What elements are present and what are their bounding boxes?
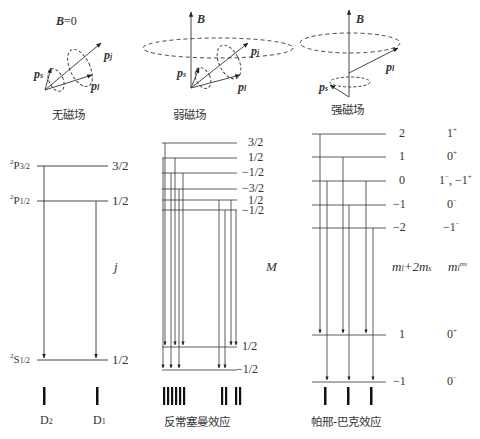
anomalous-zeeman-label: 反常塞曼效应	[164, 413, 230, 429]
ml2ms-lower-1: 1	[399, 327, 405, 342]
mlms-neg1m: −1−	[443, 220, 460, 235]
ps-label: ps	[34, 67, 43, 82]
strong-field-transitions	[320, 134, 373, 380]
term-s12: 2S1/2	[10, 352, 30, 365]
j-value-12-upper: 1/2	[112, 193, 129, 209]
ps-label-weak: ps	[177, 66, 186, 81]
pl-label: pl	[91, 79, 99, 94]
ml2ms-neg1: −1	[393, 197, 406, 212]
weak-field-transitions	[163, 143, 236, 368]
mlms-1p: 1+	[447, 126, 457, 141]
pl-label-weak: pl	[238, 80, 246, 95]
m-value-1-2: 1/2	[248, 150, 263, 165]
m-value-neg-1-2: −1/2	[242, 165, 264, 180]
term-p12: 2P1/2	[10, 193, 30, 206]
pj-label: pj	[104, 48, 112, 63]
m-value-lower-1-2: 1/2	[242, 339, 257, 354]
ml2ms-lower-neg1: −1	[393, 374, 406, 389]
strong-field-vector-diagram	[300, 10, 400, 97]
ps-label-strong: ps	[319, 80, 328, 95]
ml-plus-2ms-axis-label: ml+2ms	[392, 259, 431, 275]
strong-field-spectral-lines	[324, 387, 373, 405]
term-p32: 2P3/2	[10, 158, 30, 171]
pl-label-strong: pl	[386, 60, 394, 75]
mlms-0p: 0+	[447, 149, 457, 164]
m-value-neg-1-2-b: −1/2	[242, 203, 264, 218]
j-value-32: 3/2	[112, 158, 129, 174]
ml2ms-2: 2	[399, 126, 405, 141]
weak-field-levels	[162, 143, 237, 370]
j-value-12-lower: 1/2	[112, 352, 129, 368]
mlms-0m: 0−	[447, 197, 457, 212]
m-value-lower-neg-1-2: −1/2	[236, 362, 258, 377]
weak-field-vector-diagram	[143, 12, 293, 91]
strong-field-title: 强磁场	[331, 101, 364, 117]
ml2ms-1: 1	[399, 149, 405, 164]
weak-field-title: 弱磁场	[173, 106, 206, 122]
j-axis-label: j	[114, 259, 118, 275]
no-field-levels	[37, 166, 108, 360]
weak-field-spectral-lines	[163, 387, 241, 405]
m-axis-label: M	[266, 259, 277, 275]
mlms-lower-0m: 0−	[447, 374, 457, 389]
mlms-lower-0p: 0+	[447, 327, 457, 342]
pj-label-weak: pj	[251, 44, 259, 59]
ml-ms-axis-label: mlms	[448, 259, 467, 275]
no-field-spectral-lines	[43, 387, 99, 405]
d1-line-label: D1	[93, 413, 106, 428]
m-value-3-2: 3/2	[248, 135, 263, 150]
d2-line-label: D2	[40, 413, 53, 428]
paschen-back-label: 帕邢-巴克效应	[311, 413, 381, 429]
b-zero-label: B=0	[56, 14, 77, 29]
ml2ms-neg2: −2	[393, 220, 406, 235]
ml2ms-0: 0	[399, 173, 405, 188]
mlms-1m-neg1p: 1−, −1+	[439, 173, 472, 188]
no-field-title: 无磁场	[52, 106, 85, 122]
b-label-strong: B	[356, 12, 364, 27]
b-label-weak: B	[197, 12, 205, 27]
